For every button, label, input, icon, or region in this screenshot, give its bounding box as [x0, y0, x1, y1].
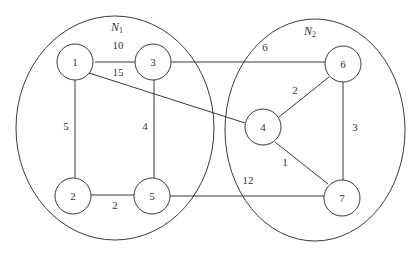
- edge-weight-4-6: 2: [292, 84, 298, 96]
- edge-4-6: [279, 77, 329, 117]
- node-label: 5: [149, 190, 155, 202]
- edge-weight-1-4: 15: [113, 66, 125, 78]
- node-1: 1: [57, 44, 93, 80]
- edge-weight-6-7: 3: [352, 121, 358, 133]
- edge-weight-4-7: 1: [282, 156, 288, 168]
- edge-weight-5-7: 12: [243, 174, 254, 186]
- node-label: 6: [340, 58, 346, 70]
- edge-weight-2-5: 2: [112, 199, 118, 211]
- network-diagram: 1325467 N1N21015654212213: [0, 0, 418, 254]
- region-subscript: 2: [312, 30, 316, 39]
- node-6: 6: [325, 46, 361, 82]
- edge-weight-3-6: 6: [262, 41, 268, 53]
- edge-weight-1-2: 5: [63, 120, 69, 132]
- node-4: 4: [245, 109, 281, 145]
- node-7: 7: [324, 180, 360, 216]
- node-label: 7: [339, 192, 345, 204]
- labels-layer: N1N21015654212213: [63, 20, 358, 211]
- region-label-n2: N2: [303, 24, 316, 39]
- edges-layer: [75, 62, 343, 196]
- node-label: 3: [150, 56, 156, 68]
- node-label: 1: [72, 56, 78, 68]
- region-label-n1: N1: [110, 20, 123, 35]
- node-2: 2: [55, 178, 91, 214]
- region-subscript: 1: [119, 26, 123, 35]
- edge-1-4: [89, 73, 245, 123]
- nodes-layer: 1325467: [55, 44, 361, 216]
- diagram-canvas: 1325467 N1N21015654212213: [0, 0, 418, 254]
- edge-weight-3-5: 4: [142, 120, 148, 132]
- node-5: 5: [134, 178, 170, 214]
- edge-weight-1-3: 10: [113, 39, 125, 51]
- node-label: 2: [70, 190, 76, 202]
- node-3: 3: [135, 44, 171, 80]
- node-label: 4: [260, 121, 266, 133]
